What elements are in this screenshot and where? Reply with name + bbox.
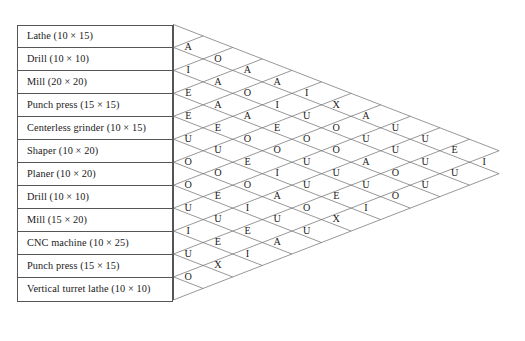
matrix-gridlines — [174, 25, 500, 300]
relationship-cell[interactable]: A — [273, 190, 281, 201]
relationship-cell[interactable]: I — [483, 156, 487, 167]
activity-label: Planer (10 × 20) — [27, 169, 96, 179]
activity-label: Drill (10 × 10) — [27, 192, 89, 202]
activity-label: Vertical turret lathe (10 × 10) — [27, 284, 151, 294]
relationship-cell[interactable]: E — [185, 87, 191, 98]
relationship-cell[interactable]: A — [362, 156, 370, 167]
relationship-cell[interactable]: O — [185, 271, 192, 282]
relationship-cell[interactable]: A — [214, 76, 222, 87]
activity-list: Lathe (10 × 15) Drill (10 × 10) Mill (20… — [17, 25, 173, 302]
activity-row[interactable]: Mill (15 × 20) — [18, 209, 172, 232]
activity-label: CNC machine (10 × 25) — [27, 238, 129, 248]
relationship-cell[interactable]: O — [244, 133, 251, 144]
relationship-cell[interactable]: O — [214, 53, 221, 64]
relationship-cell[interactable]: U — [185, 202, 193, 213]
relationship-cell[interactable]: E — [244, 156, 250, 167]
relationship-cell[interactable]: E — [333, 190, 339, 201]
relationship-cell[interactable]: E — [185, 110, 191, 121]
activity-label: Mill (15 × 20) — [27, 215, 87, 225]
activity-row[interactable]: Planer (10 × 20) — [18, 163, 172, 186]
relationship-cell[interactable]: O — [244, 179, 251, 190]
activity-row[interactable]: Drill (10 × 10) — [18, 48, 172, 71]
activity-row[interactable]: Punch press (15 × 15) — [18, 94, 172, 117]
relationship-cell[interactable]: O — [185, 179, 192, 190]
relationship-cell[interactable]: E — [452, 144, 458, 155]
activity-label: Drill (10 × 10) — [27, 54, 89, 64]
relationship-cell[interactable]: U — [362, 133, 370, 144]
relationship-cell[interactable]: O — [392, 167, 399, 178]
relationship-cell[interactable]: I — [275, 99, 279, 110]
relationship-cell[interactable]: A — [273, 76, 281, 87]
activity-row[interactable]: CNC machine (10 × 25) — [18, 232, 172, 255]
activity-label: Shaper (10 × 20) — [27, 146, 98, 156]
relationship-cell[interactable]: U — [333, 167, 341, 178]
activity-relationship-chart: AIEEUOOUIUOOAAEUOEUEXAOAOEOIEIAIEOIAUAIU… — [0, 0, 525, 341]
relationship-cell[interactable]: A — [244, 64, 252, 75]
relationship-cell[interactable]: O — [273, 144, 280, 155]
activity-label: Mill (20 × 20) — [27, 77, 87, 87]
relationship-cell[interactable]: I — [187, 225, 191, 236]
relationship-cell[interactable]: O — [214, 167, 221, 178]
relationship-cell[interactable]: U — [214, 144, 222, 155]
relationship-cell[interactable]: U — [303, 225, 311, 236]
activity-label: Lathe (10 × 15) — [27, 31, 93, 41]
relationship-cell[interactable]: E — [215, 236, 221, 247]
relationship-cell[interactable]: I — [305, 87, 309, 98]
relationship-cell[interactable]: U — [362, 179, 370, 190]
relationship-cell[interactable]: I — [364, 202, 368, 213]
relationship-cell[interactable]: O — [185, 156, 192, 167]
relationship-cell[interactable]: U — [303, 156, 311, 167]
relationship-cell[interactable]: U — [421, 133, 429, 144]
relationship-cell[interactable]: U — [421, 179, 429, 190]
relationship-cell[interactable]: X — [333, 213, 341, 224]
relationship-cell[interactable]: A — [244, 110, 252, 121]
activity-row[interactable]: Mill (20 × 20) — [18, 71, 172, 94]
relationship-cell[interactable]: U — [185, 248, 193, 259]
relationship-cell[interactable]: U — [273, 213, 281, 224]
relationship-cell[interactable]: I — [187, 64, 191, 75]
relationship-cell[interactable]: A — [362, 110, 370, 121]
activity-row[interactable]: Centerless grinder (10 × 15) — [18, 117, 172, 140]
relationship-cell[interactable]: O — [303, 202, 310, 213]
activity-row[interactable]: Vertical turret lathe (10 × 10) — [18, 278, 172, 301]
activity-row[interactable]: Lathe (10 × 15) — [18, 26, 172, 49]
relationship-cell[interactable]: A — [273, 236, 281, 247]
relationship-cell[interactable]: O — [333, 122, 340, 133]
relationship-cell[interactable]: A — [214, 99, 222, 110]
relationship-cell[interactable]: U — [214, 213, 222, 224]
relationship-cell[interactable]: I — [275, 167, 279, 178]
relationship-cell[interactable]: U — [421, 156, 429, 167]
relationship-cell[interactable]: O — [333, 144, 340, 155]
relationship-cell[interactable]: I — [246, 202, 250, 213]
relationship-cell[interactable]: U — [303, 179, 311, 190]
relationship-cell[interactable]: U — [303, 110, 311, 121]
relationship-cell[interactable]: U — [185, 133, 193, 144]
relationship-cell[interactable]: I — [246, 248, 250, 259]
activity-row[interactable]: Shaper (10 × 20) — [18, 140, 172, 163]
relationship-cell[interactable]: E — [244, 225, 250, 236]
relationship-cell[interactable]: U — [451, 167, 459, 178]
relationship-cell[interactable]: O — [392, 190, 399, 201]
relationship-cell[interactable]: E — [215, 122, 221, 133]
relationship-cell[interactable]: X — [214, 259, 222, 270]
relationship-cell[interactable]: E — [274, 122, 280, 133]
relationship-cell[interactable]: U — [392, 122, 400, 133]
activity-label: Punch press (15 × 15) — [27, 100, 120, 110]
relationship-cell[interactable]: E — [215, 190, 221, 201]
relationship-cell[interactable]: U — [392, 144, 400, 155]
activity-row[interactable]: Punch press (15 × 15) — [18, 255, 172, 278]
relationship-cell[interactable]: O — [303, 133, 310, 144]
relationship-cell[interactable]: X — [333, 99, 341, 110]
activity-label: Punch press (15 × 15) — [27, 261, 120, 271]
activity-row[interactable]: Drill (10 × 10) — [18, 186, 172, 209]
activity-label: Centerless grinder (10 × 15) — [27, 123, 146, 133]
relationship-cell[interactable]: A — [185, 41, 193, 52]
relationship-cell[interactable]: O — [244, 87, 251, 98]
